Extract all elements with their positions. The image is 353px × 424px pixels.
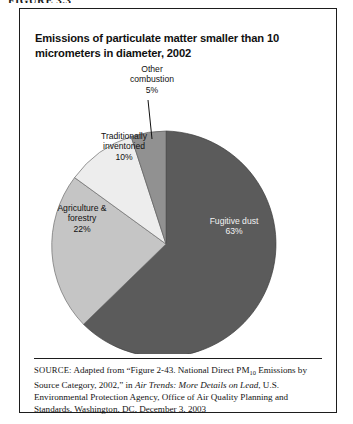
pie-label-traditionally-inventoried: Traditionally inventoried 10% [76, 131, 172, 162]
pie-chart: Other combustion 5% Traditionally invent… [20, 71, 336, 354]
source-label: SOURCE: [34, 365, 72, 375]
pie-label-traditionally-inventoried-value: 10% [76, 152, 172, 162]
figure-title: Emissions of particulate matter smaller … [35, 31, 325, 60]
source-divider [34, 358, 322, 359]
figure-container: Emissions of particulate matter smaller … [19, 8, 337, 413]
source-italic-title: Air Trends: More Details on Lead [135, 380, 258, 390]
pie-label-other-combustion-value: 5% [106, 85, 198, 95]
pie-label-agriculture-forestry-value: 22% [32, 224, 132, 234]
pie-label-fugitive-dust: Fugitive dust 63% [188, 216, 280, 237]
pie-label-traditionally-inventoried-line2: inventoried [76, 141, 172, 151]
pie-label-other-combustion: Other combustion 5% [106, 64, 198, 95]
pie-label-agriculture-forestry-line2: forestry [32, 213, 132, 223]
pie-label-traditionally-inventoried-line1: Traditionally [76, 131, 172, 141]
source-text-part1: Adapted from “Figure 2-43. National Dire… [72, 365, 250, 375]
pie-label-fugitive-dust-value: 63% [188, 226, 280, 236]
pie-label-agriculture-forestry: Agriculture & forestry 22% [32, 203, 132, 234]
source-note: SOURCE: Adapted from “Figure 2-43. Natio… [34, 364, 325, 416]
pie-label-agriculture-forestry-line1: Agriculture & [32, 203, 132, 213]
pie-label-other-combustion-line1: Other [106, 64, 198, 74]
pie-label-other-combustion-line2: combustion [106, 74, 198, 84]
pie-label-fugitive-dust-line1: Fugitive dust [188, 216, 280, 226]
running-head: FIGURE 3.3 [8, 0, 71, 3]
